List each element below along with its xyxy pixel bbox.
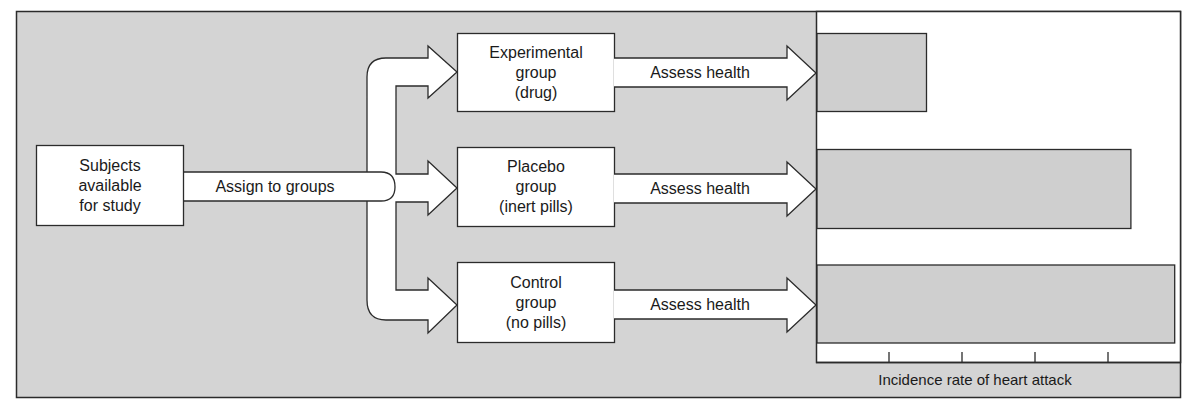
group-placebo-label: Placebo group (inert pills)	[458, 148, 614, 226]
source-line-2: available	[78, 176, 141, 196]
assign-arrow	[183, 172, 395, 201]
bar-experimental	[817, 34, 927, 112]
source-box-label: Subjects available for study	[37, 146, 183, 225]
placebo-line-2: group	[516, 177, 557, 197]
placebo-line-1: Placebo	[507, 157, 565, 177]
bar-control	[817, 265, 1175, 343]
experimental-line-1: Experimental	[489, 43, 582, 63]
control-line-2: group	[516, 293, 557, 313]
placebo-line-3: (inert pills)	[499, 197, 573, 217]
experimental-line-2: group	[516, 63, 557, 83]
bar-placebo	[817, 150, 1131, 229]
group-experimental-label: Experimental group (drug)	[458, 34, 614, 111]
control-line-1: Control	[510, 273, 562, 293]
randomized-trial-diagram: Subjects available for study Assign to g…	[0, 0, 1193, 409]
group-control-label: Control group (no pills)	[458, 263, 614, 342]
source-line-3: for study	[79, 196, 140, 216]
source-line-1: Subjects	[79, 156, 140, 176]
control-line-3: (no pills)	[506, 313, 566, 333]
experimental-line-3: (drug)	[515, 83, 558, 103]
